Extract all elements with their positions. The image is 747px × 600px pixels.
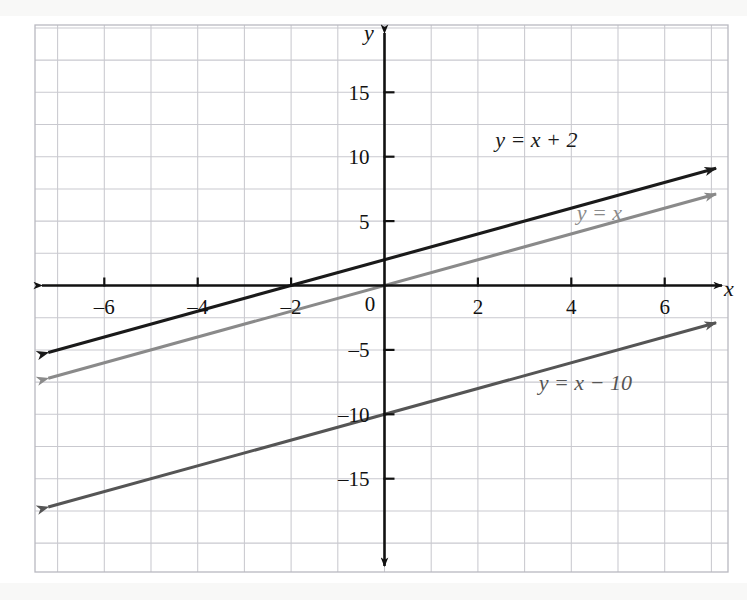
y-tick-label: –5 [348,338,370,362]
y-tick-label: –10 [337,403,370,427]
x-tick-label: –2 [280,295,302,319]
y-tick-label: 10 [349,145,370,169]
x-tick-label: 2 [473,295,484,319]
equation-label-1: y = x [575,200,623,225]
y-tick-label: –15 [337,467,370,491]
coordinate-plane-svg: –6–4–224615105–5–10–15 0 x y y = x + 2y … [0,0,747,600]
x-axis-title: x [723,276,734,301]
x-tick-label: –6 [93,295,115,319]
y-tick-label: 15 [349,81,370,105]
graph-figure: –6–4–224615105–5–10–15 0 x y y = x + 2y … [0,0,747,600]
x-tick-label: 4 [566,295,577,319]
equation-label-2: y = x − 10 [537,370,632,395]
equation-label-0: y = x + 2 [493,127,577,152]
y-axis-title: y [362,20,374,45]
x-tick-label: –4 [186,295,209,319]
origin-label: 0 [365,292,376,316]
x-tick-label: 6 [659,295,670,319]
y-tick-label: 5 [359,210,370,234]
